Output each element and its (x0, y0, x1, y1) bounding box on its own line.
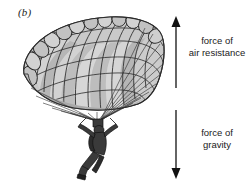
force-diagram-figure: (b) force of air resistance force of gra… (0, 0, 252, 187)
air-resistance-label-line1: force of (184, 35, 250, 47)
skydiver-right-arm (104, 124, 118, 137)
gravity-label: force of gravity (184, 127, 250, 150)
panel-label: (b) (18, 6, 31, 18)
parachute-canopy (20, 11, 166, 113)
skydiver-left-arm (78, 124, 95, 138)
gravity-label-line1: force of (184, 127, 250, 139)
canopy-cells (20, 11, 166, 113)
air-resistance-label: force of air resistance (184, 35, 250, 58)
arrow-head-down (172, 168, 181, 179)
right-toggle-line (110, 118, 116, 124)
air-resistance-arrow (172, 16, 181, 88)
diagram-canvas (0, 0, 252, 187)
air-resistance-label-line2: air resistance (184, 47, 250, 59)
arrow-head-up (172, 16, 181, 27)
gravity-label-line2: gravity (184, 139, 250, 151)
skydiver-figure (77, 118, 118, 180)
gravity-arrow (172, 110, 181, 179)
left-toggle-line (80, 118, 86, 124)
